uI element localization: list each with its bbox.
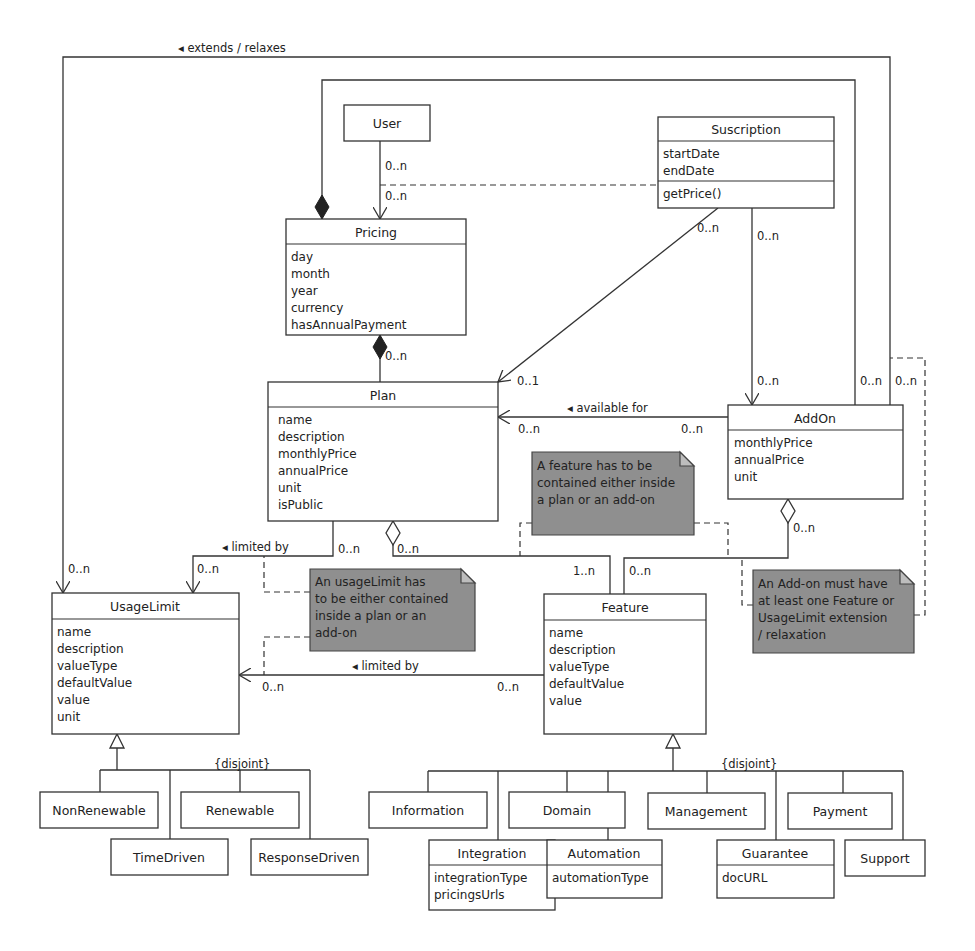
class-title: Payment [813,804,868,819]
svg-text:contained either inside: contained either inside [537,476,675,490]
attribute: value [549,694,582,708]
attribute: name [549,626,583,640]
attribute: valueType [57,659,117,673]
class-addon[interactable]: AddOn monthlyPrice annualPrice unit [728,405,903,499]
class-renewable[interactable]: Renewable [181,792,299,828]
multiplicity: 0..n [518,422,540,436]
extends-relaxes-label: ◂ extends / relaxes [178,41,286,55]
attribute: defaultValue [57,676,132,690]
class-domain[interactable]: Domain [509,792,625,828]
feature-note-anchor-left [520,523,532,556]
note-addon: An Add-on must have at least one Feature… [753,570,914,653]
class-title: Information [392,803,464,818]
multiplicity: 0..n [681,422,703,436]
attribute: year [291,284,318,298]
attribute: endDate [663,164,714,178]
attribute: name [278,413,312,427]
attribute: annualPrice [734,453,804,467]
class-title: TimeDriven [132,850,205,865]
svg-text:An Add-on must have: An Add-on must have [758,577,888,591]
svg-text:An usageLimit has: An usageLimit has [315,575,426,589]
attribute: monthlyPrice [278,447,357,461]
generalization-triangle-icon [666,734,680,748]
class-automation[interactable]: Automation automationType [547,840,662,898]
multiplicity: 0..n [385,189,407,203]
multiplicity: 0..n [697,221,719,235]
svg-text:to be either contained: to be either contained [315,592,448,606]
multiplicity: 0..n [385,349,407,363]
attribute: valueType [549,660,609,674]
class-title: Renewable [206,803,275,818]
multiplicity: 0..n [895,374,917,388]
usagelimit-note-anchor-bottom [264,637,310,675]
feature-disjoint-label: {disjoint} [721,757,777,771]
attribute: currency [291,301,343,315]
aggregation-diamond-icon [781,499,795,523]
usagelimit-note-anchor-top [264,556,310,592]
suscription-plan-association [498,208,718,382]
multiplicity: 0..n [397,542,419,556]
multiplicity: 0..1 [517,374,539,388]
method: getPrice() [663,187,721,201]
class-user[interactable]: User [344,105,430,141]
class-usagelimit[interactable]: UsageLimit name description valueType de… [52,593,239,734]
limited-by-feature-label: ◂ limited by [352,659,419,673]
attribute: defaultValue [549,677,624,691]
class-nonrenewable[interactable]: NonRenewable [40,792,158,828]
attribute: docURL [722,871,768,885]
attribute: description [57,642,124,656]
class-title: User [373,116,402,131]
class-guarantee[interactable]: Guarantee docURL [717,840,834,898]
class-title: NonRenewable [52,803,146,818]
class-title: Pricing [355,225,397,240]
class-support[interactable]: Support [845,840,925,876]
limited-by-plan-label: ◂ limited by [222,540,289,554]
attribute: monthlyPrice [734,436,813,450]
class-title: ResponseDriven [258,850,359,865]
svg-text:UsageLimit extension: UsageLimit extension [758,611,887,625]
class-title: Suscription [711,122,781,137]
svg-text:at least one Feature or: at least one Feature or [758,594,894,608]
attribute: hasAnnualPayment [291,318,407,332]
svg-text:inside a plan or an: inside a plan or an [315,609,426,623]
class-feature[interactable]: Feature name description valueType defau… [544,594,706,734]
class-title: Domain [543,803,592,818]
addon-note-anchor-left [742,558,753,605]
class-plan[interactable]: Plan name description monthlyPrice annua… [268,382,498,521]
class-title: UsageLimit [110,599,180,614]
multiplicity: 0..n [197,562,219,576]
attribute: month [291,267,330,281]
multiplicity: 0..n [793,521,815,535]
class-timedriven[interactable]: TimeDriven [111,839,228,875]
multiplicity: 0..n [860,374,882,388]
class-management[interactable]: Management [648,793,765,829]
attribute: unit [734,470,758,484]
available-for-label: ◂ available for [567,401,648,415]
class-title: Plan [370,388,397,403]
class-title: Integration [458,846,527,861]
class-title: AddOn [794,411,836,426]
class-information[interactable]: Information [369,792,487,828]
attribute: isPublic [278,498,323,512]
class-title: Automation [568,846,641,861]
class-integration[interactable]: Integration integrationType pricingsUrls [429,840,555,910]
attribute: day [291,250,313,264]
attribute: startDate [663,147,720,161]
svg-text:a plan or an add-on: a plan or an add-on [537,493,655,507]
class-responsedriven[interactable]: ResponseDriven [251,839,368,875]
attribute: pricingsUrls [434,888,505,902]
class-payment[interactable]: Payment [788,793,892,829]
class-title: Feature [601,600,649,615]
attribute: annualPrice [278,464,348,478]
class-suscription[interactable]: Suscription startDate endDate getPrice() [658,117,834,208]
attribute: unit [278,481,302,495]
composition-diamond-icon [315,195,329,219]
feature-note-anchor-right [694,523,728,558]
attribute: automationType [552,871,649,885]
class-pricing[interactable]: Pricing day month year currency hasAnnua… [286,219,466,335]
uml-class-diagram: ◂ extends / relaxes ◂ available for ◂ li… [0,0,975,951]
attribute: description [278,430,345,444]
multiplicity: 0..n [262,680,284,694]
multiplicity: 1..n [573,564,595,578]
svg-text:add-on: add-on [315,626,357,640]
